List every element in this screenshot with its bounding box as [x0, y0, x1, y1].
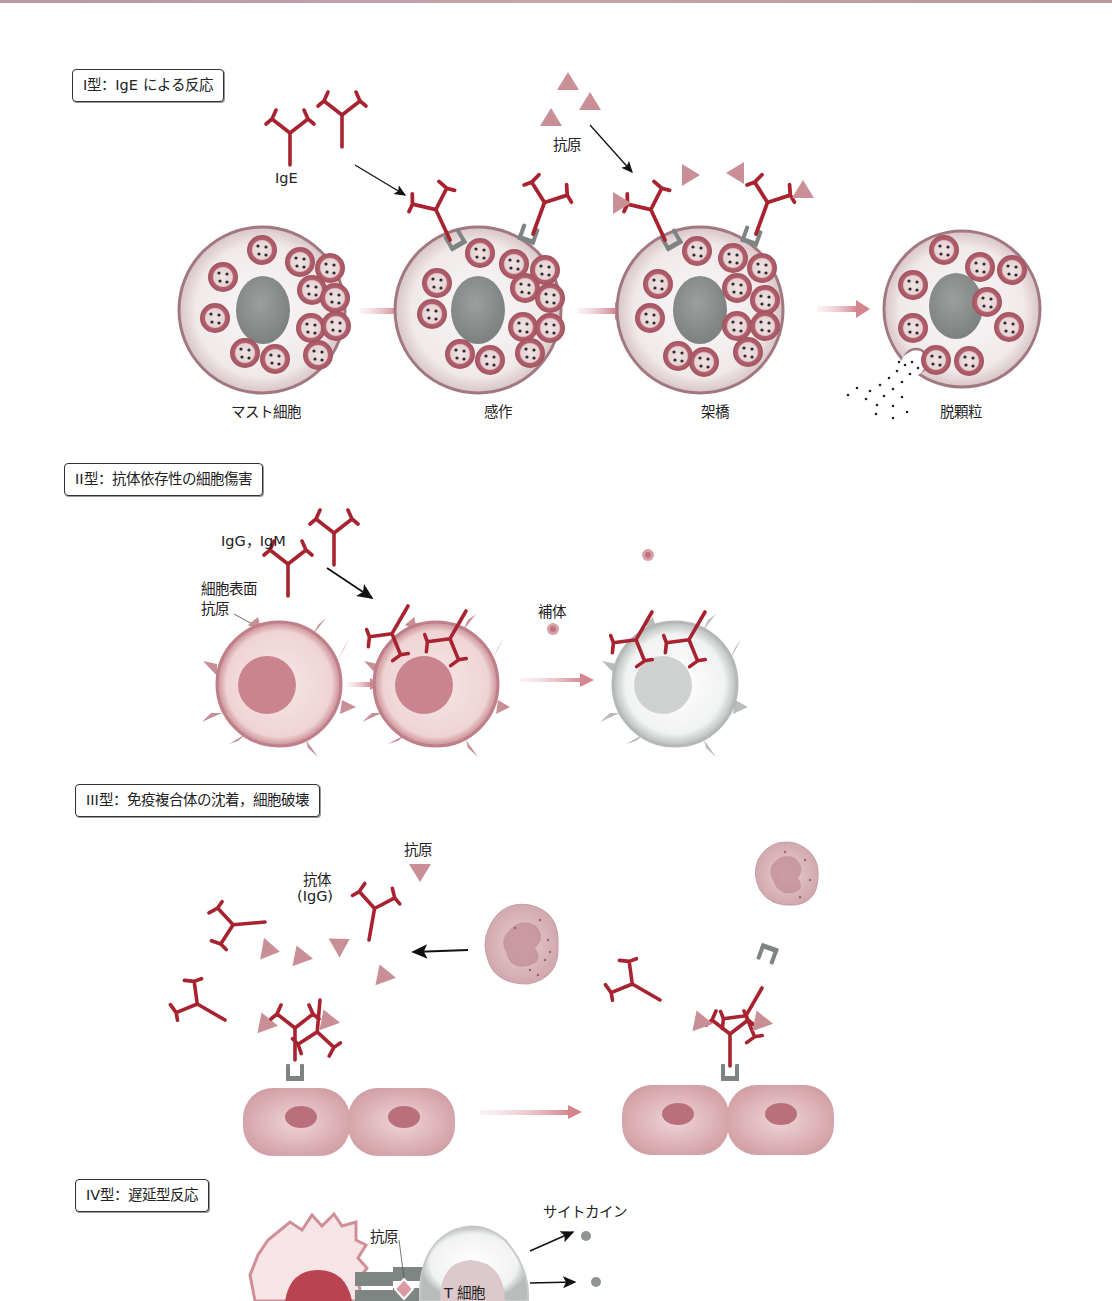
label-antigen-type1: 抗原 — [553, 133, 581, 154]
type1-antigens-free — [540, 72, 601, 126]
label-mast-cell: マスト細胞 — [231, 400, 301, 421]
mast-cell-2-sensitized — [395, 171, 576, 393]
type2-target-cell-2-opsonized — [360, 594, 510, 757]
type2-lysed-cell — [600, 549, 748, 757]
type4-title-box: IV型：遅延型反応 — [75, 1179, 209, 1212]
label-crosslinking: 架橋 — [701, 400, 729, 421]
label-sensitization: 感作 — [484, 400, 512, 421]
type2-target-cell-1 — [202, 617, 356, 757]
label-t-cell: T 細胞 — [444, 1281, 485, 1301]
type1-title-box: I型：IgE による反応 — [72, 69, 224, 102]
type3-immune-complexes — [165, 882, 402, 1081]
type2-title: II型：抗体依存性の細胞傷害 — [75, 471, 252, 487]
type2-antibodies-free — [264, 510, 358, 596]
label-antibody-1: 抗体 — [303, 868, 331, 889]
type3-title: III型：免疫複合体の沈着，細胞破壊 — [86, 792, 309, 808]
label-surface-antigen-2: 抗原 — [201, 597, 229, 618]
label-igg-igm: IgG，IgM — [221, 529, 286, 550]
type1-title: I型：IgE による反応 — [83, 77, 213, 93]
type4-title: IV型：遅延型反応 — [86, 1187, 198, 1203]
type3-title-box: III型：免疫複合体の沈着，細胞破壊 — [75, 784, 320, 817]
label-antigen-type4: 抗原 — [370, 1225, 398, 1246]
mast-cell-3-crosslinked — [613, 162, 814, 393]
type2-title-box: II型：抗体依存性の細胞傷害 — [64, 463, 263, 496]
type4-mhc-tcr — [355, 1267, 423, 1301]
type4-antigen-presenting-cell — [250, 1214, 367, 1301]
label-antigen-type3: 抗原 — [404, 838, 432, 859]
diagram-artwork — [0, 0, 1112, 1301]
label-antibody-2: (IgG) — [297, 888, 333, 904]
label-cytokine: サイトカイン — [543, 1200, 627, 1221]
type3-epithelial-cells-after — [600, 842, 834, 1155]
mast-cell-4-degranulated — [847, 231, 1040, 419]
label-ige: IgE — [275, 170, 298, 186]
label-degranulation: 脱顆粒 — [940, 400, 982, 421]
type1-ige-floating — [266, 92, 366, 165]
label-complement: 補体 — [538, 600, 566, 621]
type3-neutrophil-free — [485, 904, 558, 984]
type3-epithelial-cells-before — [243, 1088, 455, 1156]
label-surface-antigen-1: 細胞表面 — [201, 577, 257, 598]
mast-cell-1 — [179, 227, 351, 393]
